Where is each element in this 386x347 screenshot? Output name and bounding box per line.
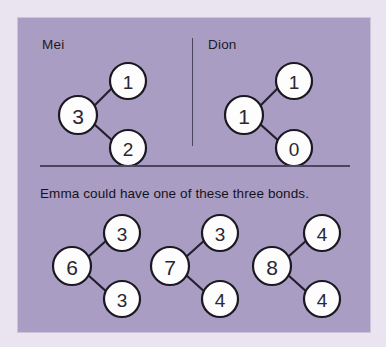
bond-value-whole: 8 [266, 256, 278, 279]
bond-value-whole: 7 [164, 256, 176, 279]
bond-value-part-top: 3 [117, 224, 128, 245]
bond-value-part-bottom: 0 [289, 139, 300, 160]
bond-diagram-mei: 3 1 2 [36, 38, 176, 148]
named-bonds-section: Mei 3 1 2 Dion 1 1 [18, 18, 370, 148]
bond-diagram-emma-3: 8 4 4 [232, 211, 352, 321]
bond-value-whole: 6 [66, 256, 78, 279]
bond-value-part-top: 4 [317, 224, 328, 245]
section-divider-vertical [192, 38, 193, 146]
bond-value-part-top: 3 [215, 224, 226, 245]
worksheet-card: Mei 3 1 2 Dion 1 1 [18, 18, 370, 332]
bond-value-part-bottom: 3 [117, 290, 128, 311]
bond-value-part-bottom: 2 [123, 139, 134, 160]
bond-value-part-bottom: 4 [215, 290, 226, 311]
bond-value-part-bottom: 4 [317, 290, 328, 311]
bond-value-part-top: 1 [123, 72, 134, 93]
section-divider-horizontal [40, 165, 350, 167]
bond-diagram-dion: 1 1 0 [202, 38, 342, 148]
bond-value-part-top: 1 [289, 72, 300, 93]
instruction-text: Emma could have one of these three bonds… [40, 186, 309, 201]
bond-value-whole: 1 [238, 105, 250, 128]
bond-value-whole: 3 [72, 105, 84, 128]
